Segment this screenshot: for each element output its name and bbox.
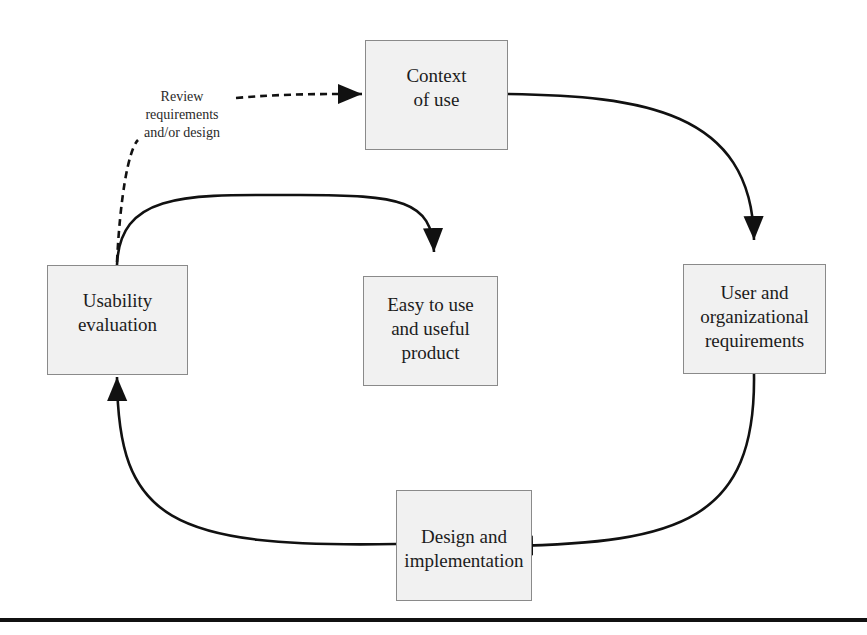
node-design-implementation-label: Design and implementation bbox=[404, 525, 523, 573]
review-annotation: Review requirements and/or design bbox=[122, 88, 242, 142]
arrow-design-to-usability bbox=[117, 377, 396, 544]
arrow-requirements-to-design bbox=[509, 374, 754, 546]
node-easy-to-use-product-label: Easy to use and useful product bbox=[387, 293, 474, 365]
bottom-rule bbox=[0, 618, 867, 622]
arrow-context-to-requirements bbox=[508, 94, 754, 240]
node-context-of-use-label: Context of use bbox=[406, 64, 466, 112]
node-easy-to-use-product: Easy to use and useful product bbox=[363, 276, 498, 386]
node-usability-evaluation: Usability evaluation bbox=[47, 265, 188, 375]
node-design-implementation: Design and implementation bbox=[396, 490, 532, 601]
node-context-of-use: Context of use bbox=[365, 40, 508, 150]
node-user-org-requirements-label: User and organizational requirements bbox=[700, 281, 808, 353]
node-usability-evaluation-label: Usability evaluation bbox=[78, 289, 157, 337]
arrow-usability-to-product bbox=[117, 195, 434, 265]
node-user-org-requirements: User and organizational requirements bbox=[683, 264, 826, 374]
